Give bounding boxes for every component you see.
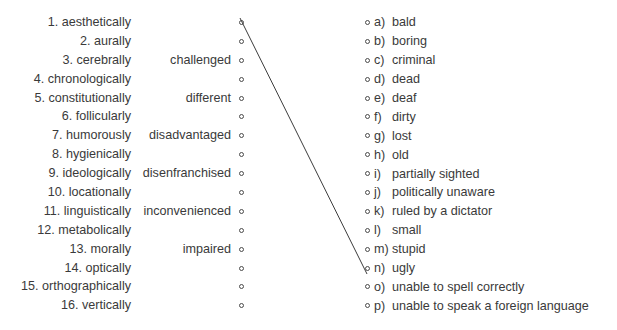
right-list-item[interactable]: k)ruled by a dictator [361,202,617,221]
left-node-cell[interactable] [234,277,248,296]
circle-node-icon[interactable] [365,133,370,138]
circle-node-icon[interactable] [365,39,370,44]
circle-node-icon[interactable] [239,58,244,63]
circle-node-icon[interactable] [239,96,244,101]
middle-spacer [130,296,231,315]
right-list-item[interactable]: f)dirty [361,107,617,126]
right-list-item[interactable]: o)unable to spell correctly [361,277,617,296]
right-list-item[interactable]: d)dead [361,70,617,89]
circle-node-icon[interactable] [239,114,244,119]
circle-node-icon[interactable] [365,96,370,101]
circle-node-icon[interactable] [239,77,244,82]
option-text: unable to speak a foreign language [392,299,589,313]
circle-node-icon[interactable] [365,284,370,289]
circle-node-icon[interactable] [365,152,370,157]
circle-node-icon[interactable] [239,303,244,308]
right-node-cell[interactable] [361,190,374,195]
right-list-item[interactable]: g)lost [361,126,617,145]
right-list-item[interactable]: b)boring [361,32,617,51]
circle-node-icon[interactable] [365,228,370,233]
left-list-item: 4. chronologically [0,70,131,89]
right-node-cell[interactable] [361,171,374,176]
option-letter: g) [374,129,392,143]
right-list-item[interactable]: e)deaf [361,89,617,108]
option-text: old [392,148,409,162]
circle-node-icon[interactable] [365,77,370,82]
left-node-cell[interactable] [234,183,248,202]
option-letter: o) [374,280,392,294]
right-node-cell[interactable] [361,114,374,119]
right-list-item[interactable]: n)ugly [361,259,617,278]
left-node-cell[interactable] [234,145,248,164]
circle-node-icon[interactable] [365,190,370,195]
circle-node-icon[interactable] [239,209,244,214]
circle-node-icon[interactable] [365,20,370,25]
left-list-item: 7. humorously [0,126,131,145]
right-list-item[interactable]: i)partially sighted [361,164,617,183]
right-node-cell[interactable] [361,303,374,308]
circle-node-icon[interactable] [239,284,244,289]
circle-node-icon[interactable] [239,247,244,252]
circle-node-icon[interactable] [239,39,244,44]
right-node-cell[interactable] [361,58,374,63]
circle-node-icon[interactable] [239,171,244,176]
right-node-cell[interactable] [361,39,374,44]
right-node-cell[interactable] [361,133,374,138]
circle-node-icon[interactable] [365,171,370,176]
left-node-cell[interactable] [234,240,248,259]
option-letter: e) [374,91,392,105]
left-node-cell[interactable] [234,126,248,145]
middle-suffix-label: inconvenienced [130,202,231,221]
right-node-cell[interactable] [361,266,374,271]
circle-node-icon[interactable] [365,114,370,119]
left-node-cell[interactable] [234,32,248,51]
left-node-cell[interactable] [234,296,248,315]
right-list-item[interactable]: h)old [361,145,617,164]
middle-spacer [130,13,231,32]
right-node-cell[interactable] [361,228,374,233]
left-node-column [234,13,248,315]
option-letter: j) [374,185,392,199]
right-node-cell[interactable] [361,20,374,25]
match-connector-line[interactable] [240,18,367,274]
circle-node-icon[interactable] [365,303,370,308]
right-node-cell[interactable] [361,96,374,101]
left-node-cell[interactable] [234,51,248,70]
circle-node-icon[interactable] [239,228,244,233]
left-node-cell[interactable] [234,89,248,108]
left-node-cell[interactable] [234,13,248,32]
middle-spacer [130,107,231,126]
right-list-item[interactable]: p)unable to speak a foreign language [361,296,617,315]
middle-spacer [130,221,231,240]
right-list-item[interactable]: j)politically unaware [361,183,617,202]
right-list-item[interactable]: m)stupid [361,240,617,259]
middle-spacer [130,259,231,278]
right-node-cell[interactable] [361,284,374,289]
left-node-cell[interactable] [234,202,248,221]
option-text: bald [392,15,416,29]
left-node-cell[interactable] [234,221,248,240]
circle-node-icon[interactable] [365,58,370,63]
left-node-cell[interactable] [234,107,248,126]
right-list-item[interactable]: c)criminal [361,51,617,70]
right-node-cell[interactable] [361,209,374,214]
left-list-item: 5. constitutionally [0,89,131,108]
circle-node-icon[interactable] [365,209,370,214]
right-list-item[interactable]: l)small [361,221,617,240]
right-option-list: a)baldb)boringc)criminald)deade)deaff)di… [361,13,617,315]
left-node-cell[interactable] [234,70,248,89]
right-list-item[interactable]: a)bald [361,13,617,32]
option-text: ugly [392,261,415,275]
circle-node-icon[interactable] [365,266,370,271]
right-node-cell[interactable] [361,152,374,157]
circle-node-icon[interactable] [239,133,244,138]
right-node-cell[interactable] [361,77,374,82]
left-node-cell[interactable] [234,164,248,183]
circle-node-icon[interactable] [365,247,370,252]
circle-node-icon[interactable] [239,152,244,157]
circle-node-icon[interactable] [239,20,244,25]
circle-node-icon[interactable] [239,266,244,271]
circle-node-icon[interactable] [239,190,244,195]
right-node-cell[interactable] [361,247,374,252]
left-node-cell[interactable] [234,259,248,278]
